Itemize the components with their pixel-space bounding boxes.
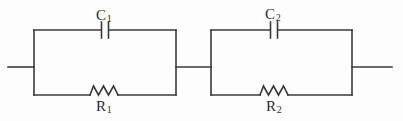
resistor-r2-label-subscript: 2 bbox=[277, 104, 282, 115]
resistor-r2-label: R2 bbox=[266, 99, 281, 114]
capacitor-c1-label: C1 bbox=[96, 8, 111, 23]
capacitor-c2-label: C2 bbox=[265, 7, 280, 22]
circuit-schematic-svg bbox=[0, 0, 403, 121]
resistor-r1-label-symbol: R bbox=[96, 98, 106, 114]
capacitor-c2-label-subscript: 2 bbox=[276, 12, 281, 23]
capacitor-c1-label-symbol: C bbox=[96, 7, 106, 23]
circuit-diagram: C1 C2 R1 R2 bbox=[0, 0, 403, 121]
capacitor-c1-label-subscript: 1 bbox=[107, 13, 112, 24]
resistor-r1-label: R1 bbox=[96, 99, 111, 114]
resistor-r2-zigzag bbox=[260, 86, 288, 95]
resistor-r1-zigzag bbox=[90, 86, 118, 95]
resistor-r1-label-subscript: 1 bbox=[107, 104, 112, 115]
capacitor-c2-label-symbol: C bbox=[265, 6, 275, 22]
resistor-r2-label-symbol: R bbox=[266, 98, 276, 114]
